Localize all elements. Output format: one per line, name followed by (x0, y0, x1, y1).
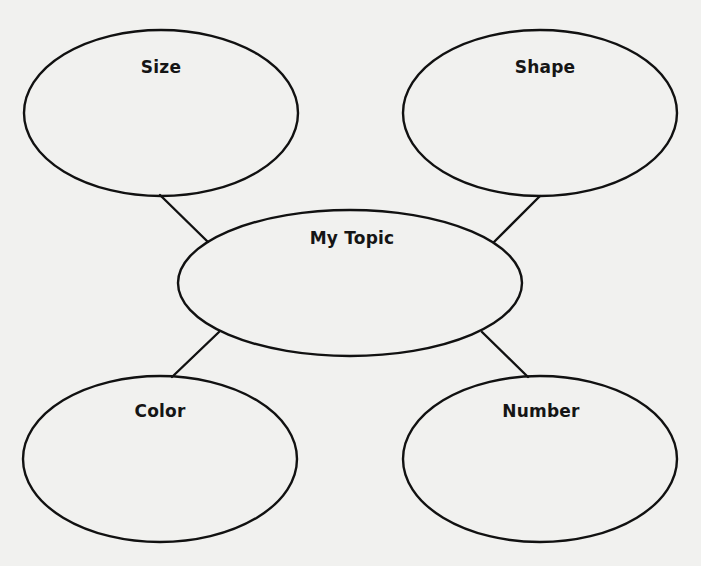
color-bubble-label: Color (134, 401, 185, 421)
shape-bubble-label: Shape (515, 57, 576, 77)
size-bubble (24, 30, 298, 196)
size-bubble-label: Size (141, 57, 181, 77)
shape-bubble (403, 30, 677, 196)
connector-lines (160, 195, 540, 377)
diagram-canvas (0, 0, 701, 566)
bubble-shapes (23, 30, 677, 542)
connector-shape-topic (494, 196, 540, 242)
center-topic-label: My Topic (310, 228, 395, 248)
number-bubble-label: Number (502, 401, 579, 421)
connector-color-topic (172, 332, 219, 377)
connector-number-topic (482, 332, 528, 377)
connector-size-topic (160, 195, 208, 242)
concept-web-diagram: My Topic Size Shape Color Number (0, 0, 701, 566)
